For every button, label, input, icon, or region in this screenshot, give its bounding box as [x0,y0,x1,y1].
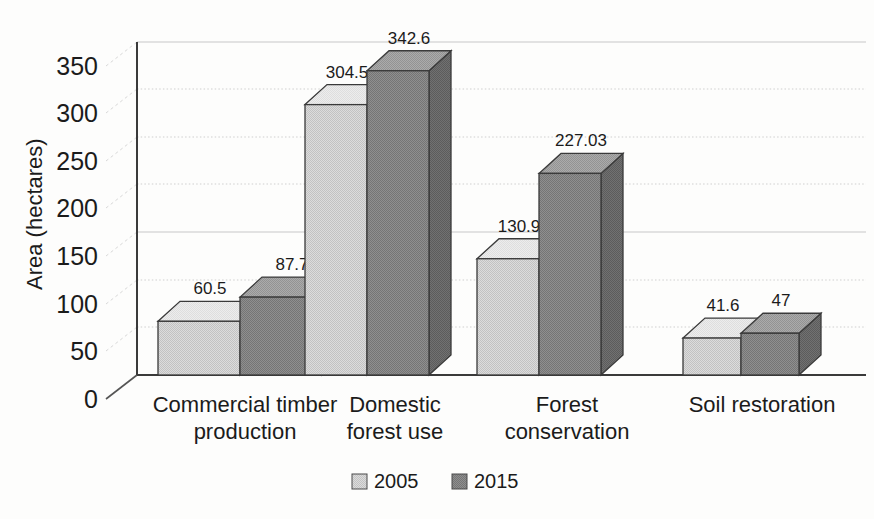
bar-front-face [305,105,367,375]
bar-front-face [539,173,601,375]
bar-value-label: 87.7 [275,255,308,274]
y-axis-title: Area (hectares) [22,138,47,290]
y-tick-label-300: 300 [56,99,98,127]
category-label-3: conservation [505,419,630,444]
category-label-1: production [194,419,297,444]
bar-chart-3d: 350 300 250 200 150 100 50 0 Area (hecta… [0,0,874,519]
bar-value-label: 41.6 [706,296,739,315]
chart-page: 350 300 250 200 150 100 50 0 Area (hecta… [0,0,874,519]
category-label-3: Forest [536,392,598,417]
y-tick-label-50: 50 [70,337,98,365]
y-tick-label-200: 200 [56,194,98,222]
bar-2015-4[interactable] [741,313,821,375]
y-tick-label-250: 250 [56,147,98,175]
bar-side-face [601,153,623,375]
y-tick-label-150: 150 [56,242,98,270]
y-tick-label-100: 100 [56,290,98,318]
bar-front-face [741,333,799,375]
category-label-2: Domestic [349,392,441,417]
category-label-2: forest use [347,419,444,444]
bar-front-face [158,321,240,375]
bar-front-face [477,259,539,375]
bar-front-face [367,71,429,375]
legend-label-2015: 2015 [474,470,519,492]
y-tick-label-0: 0 [84,385,98,413]
bar-value-label: 47 [772,291,791,310]
legend-swatch-2005[interactable] [352,474,367,489]
bar-value-label: 130.9 [498,217,541,236]
legend-label-2005: 2005 [374,470,419,492]
bar-side-face [429,51,451,375]
bar-front-face [683,338,741,375]
bar-2015-2[interactable] [367,51,451,375]
bar-value-label: 227.03 [555,131,607,150]
bar-value-label: 304.5 [326,63,369,82]
bar-value-label: 60.5 [193,279,226,298]
y-tick-label-350: 350 [56,52,98,80]
bar-value-label: 342.6 [388,29,431,48]
legend-swatch-2015[interactable] [452,474,467,489]
bar-2015-3[interactable] [539,153,623,375]
category-label-4: Soil restoration [689,392,836,417]
category-label-1: Commercial timber [153,392,338,417]
